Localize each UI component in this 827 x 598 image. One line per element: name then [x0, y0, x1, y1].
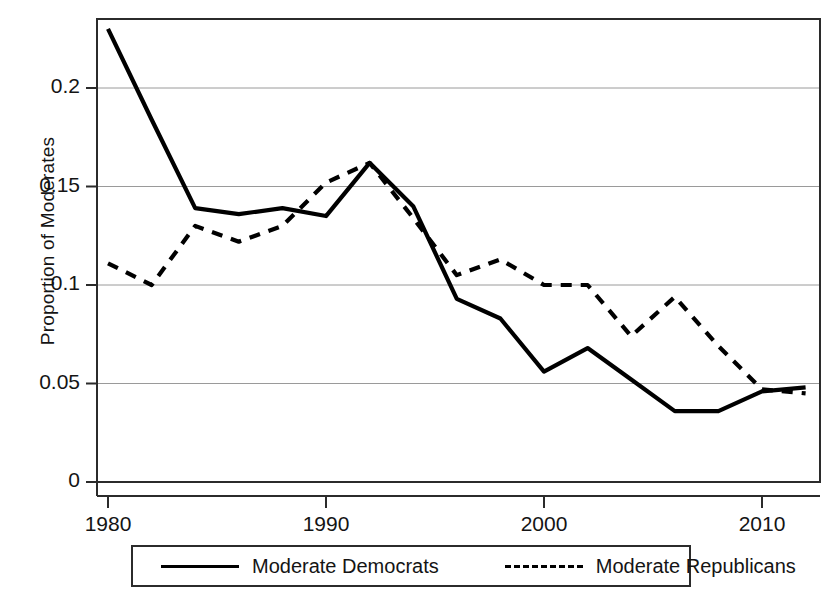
chart-legend: Moderate Democrats Moderate Republicans — [131, 545, 691, 587]
legend-label-moderate-republicans: Moderate Republicans — [596, 555, 796, 578]
legend-entry-moderate-democrats: Moderate Democrats — [161, 555, 439, 578]
series-line-moderate-democrats — [108, 29, 806, 411]
legend-line-sample-dashed-icon — [505, 565, 583, 568]
legend-label-moderate-democrats: Moderate Democrats — [252, 555, 439, 578]
legend-line-sample-solid-icon — [161, 565, 239, 568]
chart-figure: Proportion of Moderates 00.050.10.150.2 … — [0, 0, 827, 598]
series-line-moderate-republicans — [108, 163, 806, 393]
plot-area — [0, 0, 827, 598]
legend-entry-moderate-republicans: Moderate Republicans — [505, 555, 796, 578]
